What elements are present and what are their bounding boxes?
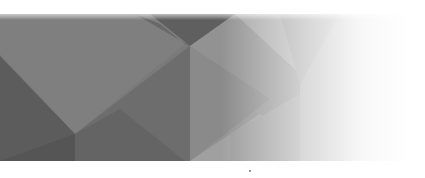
small-dot — [249, 170, 251, 172]
white-gradient-overlay — [0, 14, 425, 161]
top-edge-fade — [0, 14, 425, 20]
geometric-banner-image — [0, 14, 425, 161]
